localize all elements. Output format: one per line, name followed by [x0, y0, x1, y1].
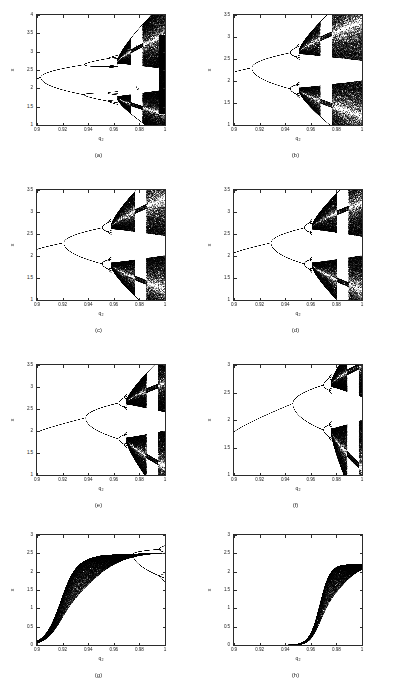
x-tick-mark — [260, 473, 261, 476]
x-tick-mark-top — [362, 190, 363, 193]
plot-area: 11.522.530.90.920.940.960.981xq2 — [197, 350, 394, 508]
x-tick-mark — [336, 473, 337, 476]
bifurcation-panel-h: 00.511.522.530.90.920.940.960.981xq2(h) — [197, 520, 394, 694]
x-tick-mark — [285, 473, 286, 476]
y-tick-label: 3.5 — [224, 13, 230, 18]
x-tick-mark — [285, 123, 286, 126]
x-tick-mark — [311, 473, 312, 476]
x-tick-label: 0.98 — [332, 478, 341, 483]
plot-area: 11.522.533.50.90.920.940.960.981xq2 — [0, 175, 197, 333]
y-tick-label: 2 — [228, 79, 230, 84]
x-tick-label: 0.94 — [281, 478, 290, 483]
x-tick-mark — [139, 123, 140, 126]
y-tick-mark — [37, 627, 40, 628]
x-tick-mark-top — [139, 365, 140, 368]
y-tick-mark — [37, 572, 40, 573]
y-axis-label: x — [10, 419, 15, 422]
x-tick-mark — [37, 643, 38, 646]
x-tick-mark-top — [234, 365, 235, 368]
y-tick-mark-right — [163, 234, 166, 235]
y-tick-label: 1.5 — [27, 276, 33, 281]
x-tick-label: 1 — [361, 648, 363, 653]
y-tick-mark-right — [163, 387, 166, 388]
y-tick-mark — [37, 88, 40, 89]
y-tick-mark — [37, 256, 40, 257]
axes-box: 11.522.533.50.90.920.940.960.981 — [233, 14, 363, 126]
y-tick-label: 2.5 — [224, 551, 230, 556]
x-axis-label: q2 — [296, 136, 301, 142]
x-tick-mark — [260, 123, 261, 126]
y-tick-label: 3 — [31, 210, 33, 215]
axes-box: 11.522.533.540.90.920.940.960.981 — [36, 14, 166, 126]
bifurcation-canvas — [37, 190, 165, 300]
y-tick-mark-right — [360, 59, 363, 60]
x-tick-mark-top — [285, 535, 286, 538]
x-tick-mark-top — [311, 15, 312, 18]
x-tick-label: 0.92 — [58, 303, 67, 308]
y-tick-mark-right — [163, 572, 166, 573]
y-tick-mark-right — [163, 608, 166, 609]
x-tick-label: 0.9 — [231, 128, 237, 133]
x-tick-mark-top — [336, 15, 337, 18]
y-tick-mark-right — [163, 453, 166, 454]
x-tick-mark — [285, 298, 286, 301]
y-tick-mark — [37, 70, 40, 71]
x-tick-mark — [114, 123, 115, 126]
bifurcation-panel-g: 00.511.522.530.90.920.940.960.981xq2(g) — [0, 520, 197, 694]
y-tick-label: 3 — [31, 385, 33, 390]
x-axis-label: q2 — [296, 486, 301, 492]
y-tick-mark-right — [360, 81, 363, 82]
y-tick-label: 1.5 — [27, 451, 33, 456]
y-tick-mark-right — [360, 572, 363, 573]
x-tick-mark — [88, 123, 89, 126]
plot-area: 11.522.533.50.90.920.940.960.981xq2 — [0, 350, 197, 508]
panel-caption: (h) — [197, 672, 394, 678]
x-tick-label: 0.96 — [110, 648, 119, 653]
axes-box: 11.522.533.50.90.920.940.960.981 — [233, 189, 363, 301]
y-tick-label: 1.5 — [224, 101, 230, 106]
y-tick-label: 3 — [228, 210, 230, 215]
bifurcation-canvas — [234, 365, 362, 475]
y-axis-label: x — [10, 589, 15, 592]
x-axis-label: q2 — [99, 136, 104, 142]
x-tick-mark-top — [285, 365, 286, 368]
y-tick-mark-right — [360, 256, 363, 257]
y-tick-label: 0.5 — [27, 624, 33, 629]
x-tick-label: 0.9 — [34, 478, 40, 483]
y-tick-label: 3.5 — [27, 363, 33, 368]
bifurcation-canvas — [37, 365, 165, 475]
x-tick-mark-top — [234, 190, 235, 193]
y-tick-mark — [234, 59, 237, 60]
y-tick-label: 2.5 — [224, 232, 230, 237]
y-tick-mark-right — [163, 475, 166, 476]
x-tick-mark — [311, 643, 312, 646]
x-tick-mark — [234, 643, 235, 646]
x-tick-mark-top — [362, 535, 363, 538]
x-tick-mark — [311, 298, 312, 301]
x-tick-mark-top — [336, 365, 337, 368]
y-tick-mark-right — [163, 553, 166, 554]
x-tick-label: 0.9 — [34, 648, 40, 653]
x-tick-mark-top — [234, 15, 235, 18]
y-tick-label: 1.5 — [224, 588, 230, 593]
x-tick-mark — [362, 643, 363, 646]
y-tick-label: 3 — [228, 35, 230, 40]
y-tick-label: 3 — [228, 533, 230, 538]
y-tick-mark-right — [360, 590, 363, 591]
y-tick-mark — [234, 553, 237, 554]
x-tick-label: 0.98 — [332, 128, 341, 133]
y-tick-mark — [37, 234, 40, 235]
x-tick-mark-top — [63, 535, 64, 538]
y-tick-mark — [234, 393, 237, 394]
x-tick-label: 0.9 — [231, 478, 237, 483]
x-tick-mark — [336, 298, 337, 301]
bifurcation-panel-d: 11.522.533.50.90.920.940.960.981xq2(d) — [197, 175, 394, 349]
x-tick-mark — [37, 473, 38, 476]
x-tick-label: 0.96 — [307, 478, 316, 483]
x-tick-mark — [114, 473, 115, 476]
x-tick-mark — [88, 298, 89, 301]
y-tick-mark-right — [360, 475, 363, 476]
y-tick-label: 1 — [31, 298, 33, 303]
x-tick-mark-top — [63, 365, 64, 368]
y-tick-mark-right — [163, 627, 166, 628]
